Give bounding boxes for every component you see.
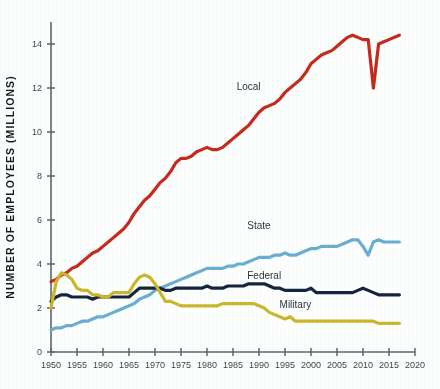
series-lines (51, 35, 399, 330)
svg-text:1965: 1965 (119, 360, 139, 370)
series-line-state (51, 240, 399, 330)
chart-canvas: 02468101214 1950195519601965197019751980… (0, 0, 440, 389)
svg-text:1975: 1975 (171, 360, 191, 370)
svg-text:1955: 1955 (67, 360, 87, 370)
series-inline-labels: LocalStateFederalMilitary (237, 81, 312, 310)
svg-text:2015: 2015 (379, 360, 399, 370)
employment-line-chart: 02468101214 1950195519601965197019751980… (0, 0, 440, 389)
svg-text:1960: 1960 (93, 360, 113, 370)
series-label-federal: Federal (247, 270, 281, 281)
svg-text:2: 2 (37, 303, 42, 313)
svg-text:8: 8 (37, 171, 42, 181)
svg-text:12: 12 (32, 83, 42, 93)
svg-text:2005: 2005 (327, 360, 347, 370)
svg-text:1980: 1980 (197, 360, 217, 370)
svg-text:6: 6 (37, 215, 42, 225)
svg-text:1990: 1990 (249, 360, 269, 370)
svg-text:1970: 1970 (145, 360, 165, 370)
svg-text:2020: 2020 (405, 360, 425, 370)
svg-text:1950: 1950 (41, 360, 61, 370)
svg-text:0: 0 (37, 347, 42, 357)
svg-text:1995: 1995 (275, 360, 295, 370)
series-label-state: State (247, 220, 271, 231)
series-label-local: Local (237, 81, 261, 92)
svg-text:2010: 2010 (353, 360, 373, 370)
svg-text:4: 4 (37, 259, 42, 269)
series-label-military: Military (280, 299, 312, 310)
series-line-federal (51, 284, 399, 302)
svg-text:1985: 1985 (223, 360, 243, 370)
svg-text:14: 14 (32, 39, 42, 49)
y-axis-title: NUMBER OF EMPLOYEES (MILLIONS) (4, 75, 16, 298)
series-line-local (51, 35, 399, 281)
svg-text:10: 10 (32, 127, 42, 137)
svg-text:2000: 2000 (301, 360, 321, 370)
